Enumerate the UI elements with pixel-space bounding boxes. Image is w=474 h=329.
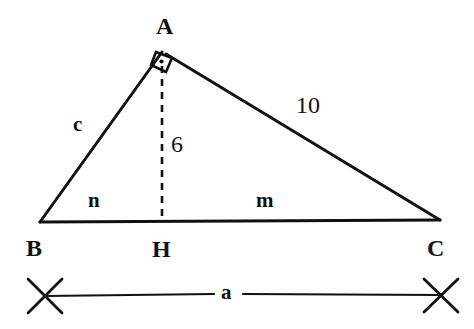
side-label-n: n (88, 190, 100, 211)
measure-label-altitude: 6 (171, 132, 183, 156)
vertex-label-a: A (156, 14, 173, 38)
side-label-a: a (221, 282, 232, 303)
segment-base (40, 220, 440, 222)
vertex-label-c: C (427, 236, 444, 260)
measure-label-right-leg: 10 (296, 93, 320, 117)
diagram-canvas (0, 0, 474, 329)
geometry-diagram: A B C H c n m a 6 10 (0, 0, 474, 329)
segment-left-leg (40, 52, 162, 222)
vertex-label-b: B (26, 236, 42, 260)
segment-right-leg (166, 54, 440, 220)
side-label-c: c (73, 114, 82, 135)
vertex-label-h: H (152, 237, 171, 261)
dimension-line-right (243, 294, 440, 295)
side-label-m: m (256, 190, 274, 211)
dimension-line-left (45, 294, 214, 296)
right-angle-dot-icon (159, 59, 163, 63)
